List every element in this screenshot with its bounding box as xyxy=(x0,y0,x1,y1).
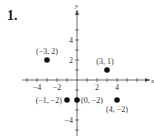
data-point xyxy=(64,97,70,103)
data-points: (−3, 2)(3, 1)(−1, −2)(0, −2)(4, −2) xyxy=(36,47,129,114)
y-axis: y xyxy=(74,2,79,136)
y-tick-label: −4 xyxy=(64,116,73,125)
data-point xyxy=(104,67,110,73)
y-tick-label: 4 xyxy=(69,36,73,45)
x-tick-label: 2 xyxy=(95,83,99,92)
data-point xyxy=(74,97,80,103)
point-label: (−3, 2) xyxy=(36,47,58,56)
point-label: (4, −2) xyxy=(106,105,128,114)
y-tick-label: 2 xyxy=(69,56,73,65)
data-point xyxy=(44,57,50,63)
coordinate-plane: x y −4−224 −424 (−3, 2)(3, 1)(−1, −2)(0,… xyxy=(0,0,154,139)
x-axis: x xyxy=(22,77,154,85)
point-label: (−1, −2) xyxy=(36,96,63,105)
point-label: (3, 1) xyxy=(96,57,114,66)
data-point xyxy=(114,97,120,103)
x-tick-label: 4 xyxy=(115,83,119,92)
svg-text:x: x xyxy=(150,77,154,85)
x-tick-label: −2 xyxy=(53,83,62,92)
point-label: (0, −2) xyxy=(81,96,103,105)
x-tick-label: −4 xyxy=(33,83,42,92)
svg-text:y: y xyxy=(74,2,79,10)
